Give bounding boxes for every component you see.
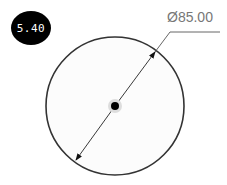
leader-line: [155, 32, 220, 52]
diameter-dimension-label[interactable]: Ø85.00: [167, 9, 213, 25]
center-point[interactable]: [111, 102, 119, 110]
diameter-drawing: [0, 0, 227, 185]
